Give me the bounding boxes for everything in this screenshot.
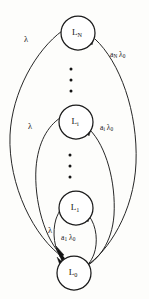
edge-label-lambda-1: λ — [48, 225, 53, 235]
edge-label-lambda-i: λ — [28, 121, 33, 131]
node-L0[interactable]: L0 — [57, 256, 91, 290]
ellipsis-upper — [70, 68, 73, 93]
edge-label-lambda-N: λ — [24, 34, 29, 44]
node-Li[interactable]: Li — [59, 105, 93, 139]
edge-L0-to-Li — [36, 118, 64, 258]
figure-root: LN Li L1 L0 λ aN λ0 — [0, 0, 149, 299]
edge-group-downward — [84, 39, 136, 268]
ellipsis-dot — [70, 90, 73, 93]
ellipsis-dot — [69, 165, 72, 168]
edge-group-upward — [10, 31, 64, 259]
edge-L0-to-LN — [10, 31, 64, 258]
node-L1[interactable]: L1 — [59, 191, 93, 225]
edge-label-ai-lambda0: ai λ0 — [100, 123, 113, 133]
state-transition-diagram: LN Li L1 L0 λ aN λ0 — [0, 0, 149, 299]
ellipsis-lower — [69, 154, 72, 179]
node-LN[interactable]: LN — [61, 16, 95, 50]
ellipsis-dot — [69, 154, 72, 157]
edge-label-aN-lambda0: aN λ0 — [110, 50, 126, 60]
ellipsis-dot — [69, 176, 72, 179]
ellipsis-dot — [70, 79, 73, 82]
ellipsis-dot — [70, 68, 73, 71]
edge-label-a1-lambda0: a1 λ0 — [61, 233, 76, 243]
